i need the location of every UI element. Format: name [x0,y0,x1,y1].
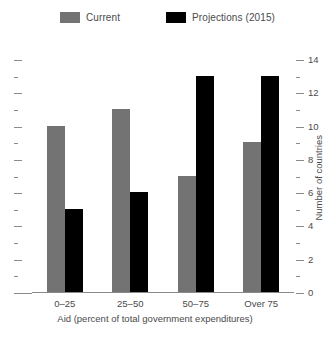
axis-tick [296,260,304,261]
y-axis-title: Number of countries [313,135,324,221]
axis-tick [14,77,18,78]
axis-tick [14,143,18,144]
y-axis-tick-label: 14 [308,55,319,65]
axis-tick [14,243,18,244]
y-axis-tick-label: 4 [308,222,313,232]
x-axis-tick-label: Over 75 [235,298,287,309]
axis-tick [14,127,22,128]
legend-swatch-projections-icon [166,12,186,23]
axis-tick [296,110,300,111]
y-axis-tick-label: 2 [308,255,313,265]
axis-tick [296,127,304,128]
bar [196,76,214,292]
axis-tick [296,143,300,144]
axis-tick [14,110,18,111]
bar-group [112,109,148,292]
x-axis-title: Aid (percent of total government expendi… [0,313,310,324]
bar-groups [32,60,294,292]
y-axis-tick-label: 0 [308,288,313,298]
axis-tick [296,160,304,161]
bar-chart: Current Projections (2015) 02468101214 0… [0,0,335,340]
bar [130,192,148,292]
y-axis-tick-label: 10 [308,122,319,132]
axis-tick [14,160,22,161]
bar [178,176,196,293]
axis-tick [296,93,304,94]
axis-tick [14,293,32,294]
axis-tick [296,193,304,194]
x-axis-baseline [32,292,294,293]
legend-label-projections: Projections (2015) [192,12,275,23]
axis-tick [296,243,300,244]
axis-tick [14,93,22,94]
plot-area [32,60,294,293]
x-axis-tick-labels: 0–2525–5050–75Over 75 [32,298,294,309]
y-axis-tick-label: 12 [308,89,319,99]
legend-item-current: Current [60,12,120,23]
axis-tick [296,177,300,178]
axis-tick [14,60,22,61]
legend-item-projections: Projections (2015) [166,12,275,23]
x-axis-tick-label: 25–50 [104,298,156,309]
x-axis-tick-label: 50–75 [170,298,222,309]
bar [112,109,130,292]
axis-tick [296,77,300,78]
axis-tick [14,260,22,261]
axis-tick [296,226,304,227]
axis-tick [14,226,22,227]
axis-tick [14,177,18,178]
bar [243,142,261,292]
axis-tick [296,210,300,211]
bar [65,209,83,292]
axis-tick [14,276,18,277]
chart-legend: Current Projections (2015) [0,12,335,23]
axis-tick [14,210,18,211]
axis-tick [296,293,304,294]
bar-group [178,76,214,292]
axis-tick [296,60,304,61]
legend-label-current: Current [86,12,120,23]
bar [261,76,279,292]
x-axis-tick-label: 0–25 [39,298,91,309]
bar-group [47,126,83,292]
axis-tick [14,193,22,194]
axis-tick [296,276,300,277]
legend-swatch-current-icon [60,12,80,23]
bar [47,126,65,292]
bar-group [243,76,279,292]
